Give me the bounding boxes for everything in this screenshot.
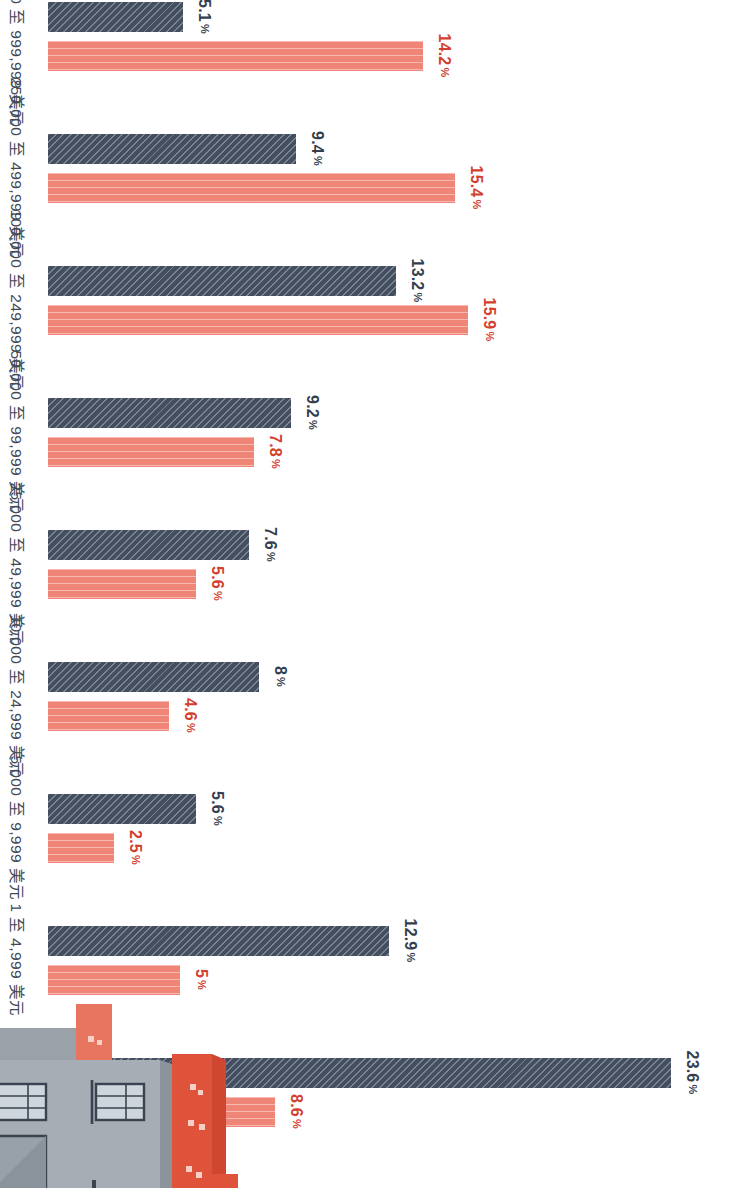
bar-value-label: 9.4% — [308, 131, 326, 166]
bar-value-label: 5.1% — [195, 0, 213, 34]
percent-sign: % — [196, 980, 208, 990]
bar-coral: 5.6% — [48, 569, 196, 599]
bar-value-label: 7.6% — [261, 527, 279, 562]
bar-value-label: 12.9% — [401, 919, 419, 963]
bar-coral: 15.4% — [48, 173, 455, 203]
percent-sign: % — [185, 723, 197, 733]
bar-dark: 12.9% — [48, 926, 389, 956]
bar-dark: 9.4% — [48, 134, 296, 164]
percent-sign: % — [439, 67, 451, 77]
bar-value-label: 23.6% — [683, 1051, 701, 1095]
percent-sign: % — [307, 420, 319, 430]
bar-value-label: 9.2% — [303, 395, 321, 430]
percent-sign: % — [312, 156, 324, 166]
bar-value-label: 5.6% — [208, 566, 226, 601]
bar-group: 23.6%8.6%0 或更少 — [0, 1046, 743, 1138]
bar-group: 5.1%14.2%500,000 至 999,999 美元 — [0, 0, 743, 82]
bar-value-label: 8.6% — [287, 1094, 305, 1129]
bar-value-label: 5% — [192, 969, 210, 990]
bar-pair: 5.1%14.2% — [48, 0, 708, 82]
percent-sign: % — [270, 459, 282, 469]
bar-value-label: 15.4% — [467, 166, 485, 210]
percent-sign: % — [471, 199, 483, 209]
percent-sign: % — [265, 552, 277, 562]
bar-value-label: 2.5% — [126, 830, 144, 865]
bar-pair: 7.6%5.6% — [48, 518, 708, 610]
bar-pair: 23.6%8.6% — [48, 1046, 708, 1138]
bar-coral: 15.9% — [48, 305, 468, 335]
bar-group: 9.2%7.8%50,000 至 99,999 美元 — [0, 386, 743, 478]
bar-coral: 4.6% — [48, 701, 169, 731]
bar-plot: 23.6%8.6%0 或更少12.9%5%1 至 4,999 美元5.6%2.5… — [0, 0, 743, 1188]
bar-group: 13.2%15.9%100,000 至 249,999 美元 — [0, 254, 743, 346]
bar-value-label: 8% — [271, 666, 289, 687]
percent-sign: % — [484, 331, 496, 341]
bar-coral: 7.8% — [48, 437, 254, 467]
bar-dark: 9.2% — [48, 398, 291, 428]
bar-value-label: 4.6% — [181, 698, 199, 733]
bar-dark: 5.6% — [48, 794, 196, 824]
bar-pair: 13.2%15.9% — [48, 254, 708, 346]
percent-sign: % — [130, 855, 142, 865]
bar-value-label: 13.2% — [408, 259, 426, 303]
bar-dark: 7.6% — [48, 530, 249, 560]
bar-coral: 2.5% — [48, 833, 114, 863]
bar-pair: 9.4%15.4% — [48, 122, 708, 214]
bar-value-label: 15.9% — [480, 298, 498, 342]
percent-sign: % — [275, 677, 287, 687]
percent-sign: % — [405, 952, 417, 962]
bar-group: 7.6%5.6%25,000 至 49,999 美元 — [0, 518, 743, 610]
bar-value-label: 14.2% — [435, 34, 453, 78]
bar-value-label: 7.8% — [266, 434, 284, 469]
percent-sign: % — [199, 24, 211, 34]
bar-coral: 5% — [48, 965, 180, 995]
category-label: 500,000 至 999,999 美元 — [8, 0, 25, 151]
percent-sign: % — [412, 292, 424, 302]
bar-pair: 5.6%2.5% — [48, 782, 708, 874]
bar-group: 9.4%15.4%250,000 至 499,999 美元 — [0, 122, 743, 214]
bar-group: 12.9%5%1 至 4,999 美元 — [0, 914, 743, 1006]
bar-coral: 14.2% — [48, 41, 423, 71]
bar-dark: 8% — [48, 662, 259, 692]
percent-sign: % — [291, 1119, 303, 1129]
percent-sign: % — [212, 816, 224, 826]
bar-pair: 8%4.6% — [48, 650, 708, 742]
chart-area: 23.6%8.6%0 或更少12.9%5%1 至 4,999 美元5.6%2.5… — [0, 0, 743, 1188]
bar-pair: 12.9%5% — [48, 914, 708, 1006]
bar-dark: 5.1% — [48, 2, 183, 32]
bar-dark: 13.2% — [48, 266, 396, 296]
percent-sign: % — [212, 591, 224, 601]
bar-group: 8%4.6%10,000 至 24,999 美元 — [0, 650, 743, 742]
bar-value-label: 5.6% — [208, 791, 226, 826]
bar-coral: 8.6% — [48, 1097, 275, 1127]
rotated-chart-stage: 23.6%8.6%0 或更少12.9%5%1 至 4,999 美元5.6%2.5… — [0, 0, 743, 1188]
percent-sign: % — [687, 1084, 699, 1094]
bar-dark: 23.6% — [48, 1058, 671, 1088]
bar-pair: 9.2%7.8% — [48, 386, 708, 478]
bar-group: 5.6%2.5%5,000 至 9,999 美元 — [0, 782, 743, 874]
